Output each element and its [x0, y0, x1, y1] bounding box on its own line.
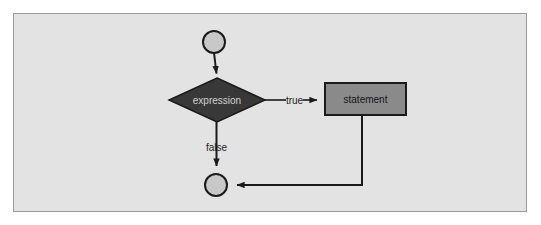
edge-label-false: false: [206, 142, 228, 153]
edge-expression-true-to-statement: true: [265, 95, 317, 106]
node-expression-decision[interactable]: expression: [169, 78, 265, 122]
flowchart-figure: true false expression statement: [0, 0, 541, 225]
edge-label-true: true: [286, 95, 304, 106]
edge-statement-to-exit: [237, 115, 362, 185]
node-entry-circle[interactable]: [203, 31, 225, 53]
node-exit-circle[interactable]: [205, 174, 227, 196]
flowchart-canvas: true false expression statement: [0, 0, 541, 225]
node-label-expression: expression: [193, 95, 241, 106]
edge-entry-to-expression: [214, 53, 217, 74]
edge-expression-false-to-exit: false: [206, 122, 228, 166]
node-statement-box[interactable]: statement: [325, 83, 406, 115]
node-label-statement: statement: [344, 94, 388, 105]
